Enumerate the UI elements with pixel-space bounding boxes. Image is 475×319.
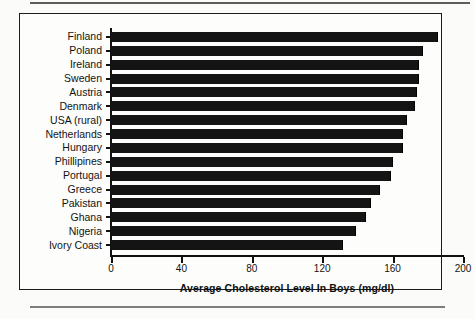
y-axis-label-text: Ghana	[70, 212, 102, 223]
bar-row	[111, 30, 463, 44]
x-tick-label: 120	[314, 263, 331, 274]
bar	[111, 198, 371, 208]
y-axis-label: Denmark	[20, 99, 108, 113]
y-axis-label-text: Sweden	[64, 73, 102, 84]
bar-series	[111, 30, 463, 252]
y-axis-label: Nigeria	[20, 224, 108, 238]
y-axis-label: Ireland	[20, 58, 108, 72]
bar	[111, 74, 419, 84]
y-axis-label-text: Poland	[69, 45, 102, 56]
bar	[111, 46, 423, 56]
y-axis-label-text: Pakistan	[62, 198, 102, 209]
y-axis-label: Austria	[20, 86, 108, 100]
y-axis-category-labels: FinlandPolandIrelandSwedenAustriaDenmark…	[20, 30, 108, 252]
bar-row	[111, 86, 463, 100]
y-axis-label-text: Netherlands	[45, 129, 102, 140]
y-axis-label: Ivory Coast	[20, 238, 108, 252]
y-axis-label: USA (rural)	[20, 113, 108, 127]
y-axis-label-text: Denmark	[59, 101, 102, 112]
chart-page: FinlandPolandIrelandSwedenAustriaDenmark…	[0, 0, 475, 319]
y-axis-label-text: Nigeria	[69, 226, 102, 237]
top-divider-rule	[30, 2, 470, 4]
y-axis-label-text: Phillipines	[55, 156, 102, 167]
y-axis-label-text: Hungary	[62, 142, 102, 153]
y-axis-label: Portugal	[20, 169, 108, 183]
bar-row	[111, 99, 463, 113]
bar	[111, 226, 356, 236]
bar-row	[111, 197, 463, 211]
bar-row	[111, 224, 463, 238]
bar-row	[111, 72, 463, 86]
bar-row	[111, 44, 463, 58]
x-tick-label: 0	[108, 263, 114, 274]
bar-row	[111, 183, 463, 197]
bar-row	[111, 113, 463, 127]
bar-row	[111, 141, 463, 155]
y-axis-label: Hungary	[20, 141, 108, 155]
bar	[111, 212, 366, 222]
y-axis-label-text: Ivory Coast	[49, 240, 102, 251]
bar-row	[111, 127, 463, 141]
bar	[111, 171, 391, 181]
bar	[111, 185, 380, 195]
y-axis-label: Greece	[20, 183, 108, 197]
bar	[111, 157, 393, 167]
y-axis-label: Ghana	[20, 210, 108, 224]
bar	[111, 129, 403, 139]
y-axis-label: Poland	[20, 44, 108, 58]
y-axis-label: Phillipines	[20, 155, 108, 169]
y-axis-label: Sweden	[20, 72, 108, 86]
bar	[111, 32, 438, 42]
bottom-divider-rule	[30, 306, 445, 308]
chart-frame: FinlandPolandIrelandSwedenAustriaDenmark…	[19, 13, 442, 290]
x-tick-label: 160	[384, 263, 401, 274]
y-axis-label-text: Portugal	[63, 170, 102, 181]
y-axis-label: Netherlands	[20, 127, 108, 141]
bar	[111, 143, 403, 153]
x-axis-tick-labels: 04080120160200	[20, 263, 441, 277]
x-axis-title: Average Cholesterol Level In Boys (mg/dl…	[111, 282, 463, 294]
bar	[111, 60, 419, 70]
bar-row	[111, 210, 463, 224]
y-axis-label-text: Greece	[68, 184, 102, 195]
x-tick-label: 40	[176, 263, 187, 274]
y-axis-label: Finland	[20, 30, 108, 44]
bar	[111, 240, 343, 250]
y-axis-label-text: USA (rural)	[50, 115, 102, 126]
bar-row	[111, 238, 463, 252]
bar-row	[111, 155, 463, 169]
bar-row	[111, 58, 463, 72]
x-tick-label: 80	[246, 263, 257, 274]
bar	[111, 115, 407, 125]
y-axis-label-text: Ireland	[70, 59, 102, 70]
y-axis-label: Pakistan	[20, 197, 108, 211]
bar	[111, 101, 415, 111]
x-tick-label: 200	[455, 263, 472, 274]
bar	[111, 87, 417, 97]
plot-area	[111, 30, 463, 252]
y-axis-label-text: Austria	[69, 87, 102, 98]
bar-row	[111, 169, 463, 183]
y-axis-label-text: Finland	[68, 31, 102, 42]
